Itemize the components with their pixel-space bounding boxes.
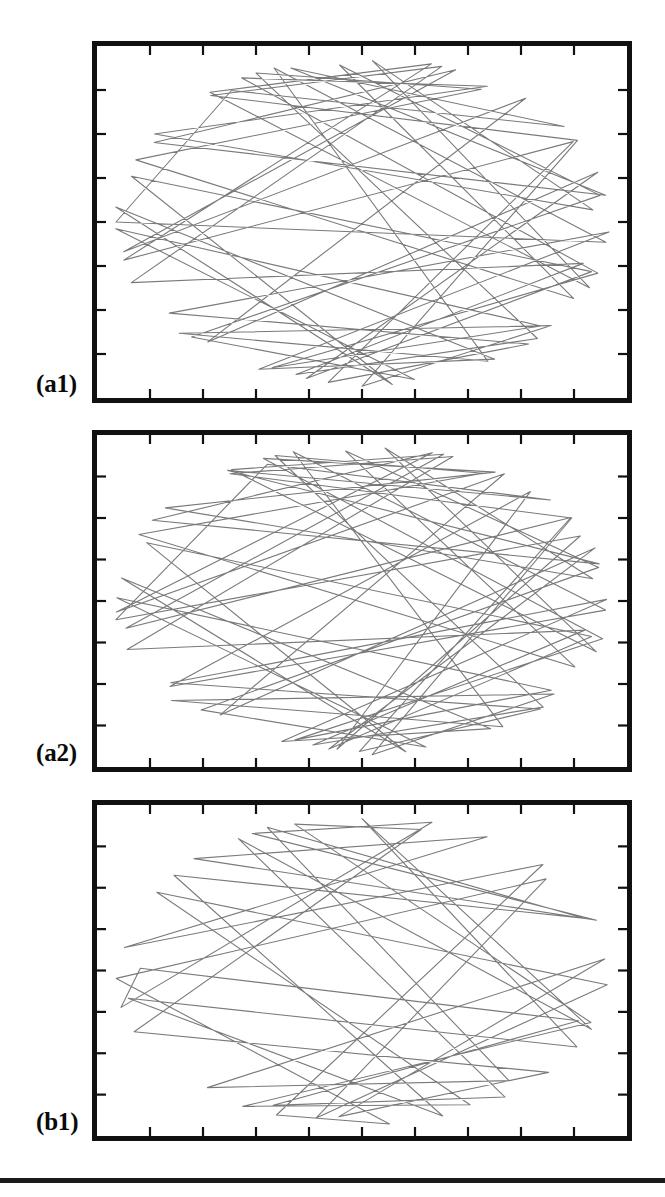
panel-a1-label: (a1) — [36, 371, 77, 396]
footer-divider — [0, 1178, 665, 1183]
figure-root: (a1) (a2) (b1) — [0, 0, 665, 1197]
panel-b1-plot — [97, 805, 627, 1136]
panel-a1-plot — [97, 46, 627, 398]
panel-b1 — [92, 800, 632, 1141]
panel-a2-label: (a2) — [36, 740, 77, 765]
panel-a2-plot — [97, 435, 627, 767]
panel-a2 — [92, 430, 632, 772]
panel-a1 — [92, 41, 632, 403]
panel-b1-label: (b1) — [36, 1109, 78, 1134]
